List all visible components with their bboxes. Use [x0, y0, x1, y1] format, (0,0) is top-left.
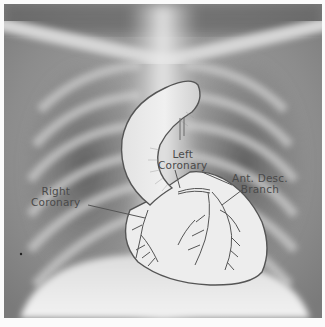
- label-ant-desc-branch: Ant. Desc. Branch: [232, 173, 288, 195]
- label-left-coronary: Left Coronary: [158, 149, 208, 171]
- label-ant-desc-branch-line2: Branch: [232, 184, 288, 195]
- label-right-coronary: Right Coronary: [31, 186, 81, 208]
- label-left-coronary-line2: Coronary: [158, 160, 208, 171]
- label-right-coronary-line2: Coronary: [31, 197, 81, 208]
- figure-frame: Left Coronary Ant. Desc. Branch Right Co…: [0, 0, 325, 327]
